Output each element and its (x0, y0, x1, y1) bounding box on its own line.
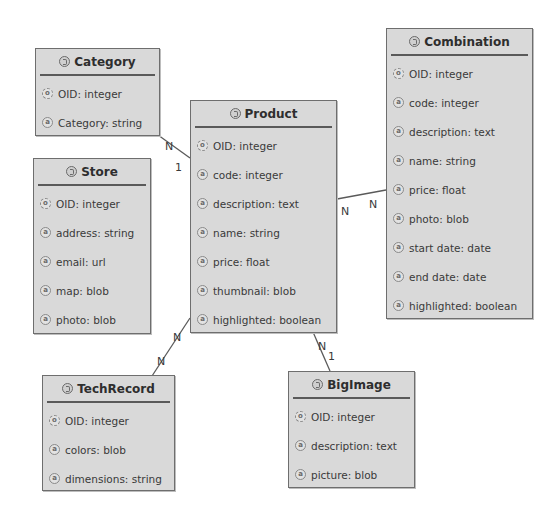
entity-title: Product (245, 107, 298, 121)
entity-icon (62, 383, 73, 394)
attribute-row[interactable]: aprice: float (393, 175, 532, 204)
entity-store[interactable]: Store oOID: integer aaddress: string aem… (33, 158, 151, 334)
attribute-icon: a (393, 155, 404, 166)
attribute-row[interactable]: acode: integer (197, 160, 336, 189)
cardinality-product-bigimage-to: 1 (328, 350, 335, 363)
attribute-label: start date: date (409, 242, 491, 254)
attribute-icon: a (393, 184, 404, 195)
attribute-icon: a (49, 473, 60, 484)
attribute-list: oOID: integer aCategory: string (36, 76, 159, 137)
edge-product-combination[interactable] (337, 190, 386, 199)
attribute-label: end date: date (409, 271, 486, 283)
cardinality-product-techrecord-to: N (157, 355, 165, 368)
attribute-row[interactable]: adescription: text (393, 117, 532, 146)
attribute-label: map: blob (56, 285, 109, 297)
attribute-label: OID: integer (311, 411, 375, 423)
attribute-row[interactable]: aname: string (393, 146, 532, 175)
attribute-label: highlighted: boolean (213, 314, 321, 326)
attribute-icon: a (40, 285, 51, 296)
attribute-label: price: float (409, 184, 466, 196)
attribute-list: oOID: integer acolors: blob adimensions:… (43, 403, 174, 493)
attribute-icon: a (40, 227, 51, 238)
attribute-icon: a (197, 169, 208, 180)
attribute-icon: a (197, 314, 208, 325)
entity-category[interactable]: Category oOID: integer aCategory: string (35, 48, 160, 136)
attribute-list: oOID: integer acode: integer adescriptio… (191, 128, 336, 334)
attribute-row[interactable]: aCategory: string (42, 108, 159, 137)
entity-header: Store (38, 159, 146, 186)
attribute-icon: a (393, 300, 404, 311)
attribute-label: code: integer (409, 97, 479, 109)
entity-header: Category (40, 49, 155, 76)
entity-header: BigImage (293, 372, 410, 399)
attribute-row[interactable]: ahighlighted: boolean (393, 291, 532, 320)
attribute-label: description: text (213, 198, 299, 210)
attribute-row[interactable]: apicture: blob (295, 460, 414, 489)
entity-title: Combination (424, 35, 510, 49)
cardinality-product-combination-from: N (341, 205, 349, 218)
key-attribute-icon: o (40, 198, 51, 209)
attribute-icon: a (40, 314, 51, 325)
attribute-label: photo: blob (56, 314, 116, 326)
attribute-label: colors: blob (65, 444, 126, 456)
attribute-icon: a (197, 256, 208, 267)
entity-icon (312, 379, 323, 390)
attribute-label: highlighted: boolean (409, 300, 517, 312)
attribute-icon: a (295, 469, 306, 480)
attribute-icon: a (295, 440, 306, 451)
attribute-icon: a (197, 198, 208, 209)
attribute-row[interactable]: aphoto: blob (393, 204, 532, 233)
entity-bigimage[interactable]: BigImage oOID: integer adescription: tex… (288, 371, 415, 488)
attribute-icon: a (197, 227, 208, 238)
attribute-row[interactable]: oOID: integer (49, 406, 174, 435)
attribute-row[interactable]: oOID: integer (40, 189, 150, 218)
attribute-row[interactable]: oOID: integer (393, 59, 532, 88)
attribute-label: OID: integer (58, 88, 122, 100)
attribute-row[interactable]: aname: string (197, 218, 336, 247)
attribute-icon: a (393, 242, 404, 253)
attribute-label: description: text (409, 126, 495, 138)
entity-title: Store (81, 165, 118, 179)
attribute-row[interactable]: ahighlighted: boolean (197, 305, 336, 334)
attribute-row[interactable]: adescription: text (295, 431, 414, 460)
attribute-row[interactable]: athumbnail: blob (197, 276, 336, 305)
attribute-icon: a (42, 117, 53, 128)
attribute-row[interactable]: adimensions: string (49, 464, 174, 493)
attribute-row[interactable]: aphoto: blob (40, 305, 150, 334)
er-diagram-canvas: N 1 N N N N N 1 Category oOID: integer a… (0, 0, 559, 518)
cardinality-product-techrecord-from: N (173, 331, 181, 344)
entity-product[interactable]: Product oOID: integer acode: integer ade… (190, 100, 337, 333)
key-attribute-icon: o (295, 411, 306, 422)
attribute-row[interactable]: adescription: text (197, 189, 336, 218)
cardinality-category-product-to: 1 (175, 161, 182, 174)
entity-techrecord[interactable]: TechRecord oOID: integer acolors: blob a… (42, 375, 175, 491)
key-attribute-icon: o (393, 68, 404, 79)
attribute-row[interactable]: oOID: integer (295, 402, 414, 431)
entity-title: Category (74, 55, 135, 69)
attribute-row[interactable]: acode: integer (393, 88, 532, 117)
attribute-row[interactable]: aemail: url (40, 247, 150, 276)
attribute-row[interactable]: oOID: integer (42, 79, 159, 108)
attribute-label: photo: blob (409, 213, 469, 225)
attribute-row[interactable]: aend date: date (393, 262, 532, 291)
attribute-row[interactable]: astart date: date (393, 233, 532, 262)
attribute-row[interactable]: acolors: blob (49, 435, 174, 464)
attribute-icon: a (40, 256, 51, 267)
entity-combination[interactable]: Combination oOID: integer acode: integer… (386, 28, 533, 319)
attribute-label: picture: blob (311, 469, 377, 481)
attribute-row[interactable]: aaddress: string (40, 218, 150, 247)
attribute-icon: a (393, 97, 404, 108)
attribute-label: name: string (409, 155, 476, 167)
attribute-row[interactable]: amap: blob (40, 276, 150, 305)
cardinality-product-combination-to: N (369, 198, 377, 211)
entity-header: Combination (391, 29, 528, 56)
attribute-row[interactable]: aprice: float (197, 247, 336, 276)
attribute-list: oOID: integer acode: integer adescriptio… (387, 56, 532, 320)
entity-title: BigImage (327, 378, 391, 392)
attribute-label: Category: string (58, 117, 142, 129)
entity-icon (66, 166, 77, 177)
entity-icon (409, 36, 420, 47)
edge-category-product[interactable] (158, 135, 190, 158)
key-attribute-icon: o (49, 415, 60, 426)
attribute-row[interactable]: oOID: integer (197, 131, 336, 160)
